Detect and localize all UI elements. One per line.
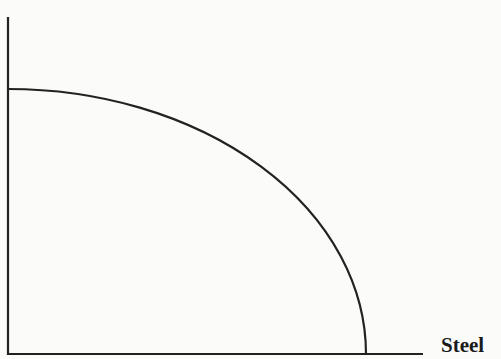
ppf-chart [0,0,501,359]
x-axis-label: Steel [441,333,484,357]
ppf-curve [8,89,366,354]
